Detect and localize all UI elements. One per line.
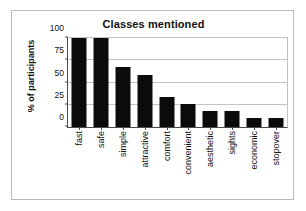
bar-slot: simple [112, 38, 134, 127]
bar-slot: safe [90, 38, 112, 127]
x-axis-category-label: simple [118, 131, 128, 157]
x-axis-tick-mark [101, 127, 102, 130]
x-axis-category-label: sights [227, 131, 237, 155]
x-axis-category-label: attractive [140, 131, 150, 168]
x-axis-category-label: stopover [271, 131, 281, 166]
x-axis-category-label: convenient [183, 131, 193, 175]
bar-slot: sights [221, 38, 243, 127]
bar [71, 38, 86, 127]
x-axis-tick-mark [276, 127, 277, 130]
x-axis-category-label: comfort [162, 131, 172, 161]
x-axis-tick-mark [145, 127, 146, 130]
x-axis-category-label: fast [74, 131, 84, 146]
x-axis-category-label: economic [249, 131, 259, 170]
y-axis-tick-label: 100 [50, 23, 64, 33]
x-axis-tick-mark [188, 127, 189, 130]
bar [225, 111, 240, 127]
x-axis-tick-mark [167, 127, 168, 130]
y-axis-tick-label: 75 [55, 45, 64, 55]
bar [115, 67, 130, 127]
y-axis-tick-label: 25 [55, 90, 64, 100]
bar [137, 75, 152, 128]
bar [203, 111, 218, 127]
y-axis-tick-label: 50 [55, 68, 64, 78]
bar-slot: comfort [156, 38, 178, 127]
x-axis-category-label: aesthetic [205, 131, 215, 167]
bar-slot: convenient [178, 38, 200, 127]
y-axis-title: % of participants [26, 36, 36, 116]
bar [159, 97, 174, 127]
bar [181, 104, 196, 127]
bar-slot: fast [68, 38, 90, 127]
y-axis-tick-label: 0 [59, 112, 64, 122]
x-axis-tick-mark [123, 127, 124, 130]
chart-frame: Classes mentioned % of participants 0255… [11, 10, 294, 200]
bar-slot: economic [243, 38, 265, 127]
bar-slot: aesthetic [199, 38, 221, 127]
x-axis-category-label: safe [96, 131, 106, 148]
bar [247, 118, 262, 127]
bar [269, 118, 284, 127]
bar-slot: attractive [134, 38, 156, 127]
bar-slot: stopover [265, 38, 287, 127]
plot-area: 0255075100 fastsafesimpleattractivecomfo… [67, 37, 288, 128]
bar [93, 38, 108, 127]
figure-canvas: Classes mentioned % of participants 0255… [0, 0, 306, 211]
x-axis-tick-mark [210, 127, 211, 130]
